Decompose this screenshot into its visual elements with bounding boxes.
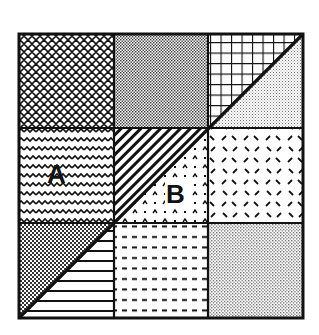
cell-r2-c1-dashrows (114, 223, 208, 318)
cell-r1-c2-dashes (208, 128, 303, 223)
quilt-diagram: A B (0, 0, 319, 335)
label-a: A (47, 159, 66, 189)
cell-r0-c0-diamond (19, 34, 114, 128)
cell-r2-c2-dots (208, 223, 303, 318)
label-b: B (166, 179, 185, 209)
cell-r0-c1-dots (114, 34, 208, 128)
